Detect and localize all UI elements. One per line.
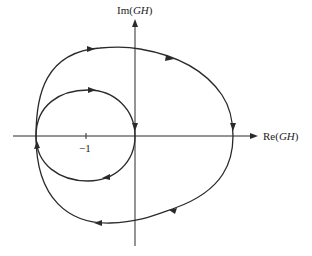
arrow-icon (34, 141, 40, 149)
imag-axis-arrow-icon (132, 19, 138, 27)
arrow-icon (94, 220, 102, 226)
arrow-icon (132, 123, 138, 131)
y-axis-label: Im(GH) (117, 4, 153, 17)
nyquist-diagram: Im(GH) Re(GH) −1 (0, 0, 312, 256)
arrow-icon (230, 123, 236, 131)
arrow-icon (87, 46, 95, 52)
x-axis-label: Re(GH) (263, 130, 299, 143)
real-axis-arrow-icon (250, 133, 258, 139)
tick-label-minus-one: −1 (79, 142, 91, 154)
arrow-icon (88, 87, 96, 93)
